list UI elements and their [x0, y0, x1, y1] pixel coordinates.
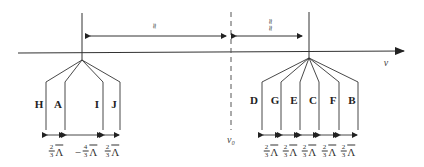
spacing-label: 23 Λ — [264, 144, 278, 159]
left-span-label: ≈ — [150, 23, 159, 30]
line-label-H: H — [35, 98, 44, 110]
spacing-label: 23 Λ — [322, 144, 336, 159]
spacing-label: 23 Λ — [302, 144, 316, 159]
nu0-label: ν₀ — [227, 134, 235, 145]
line-label-G: G — [271, 94, 280, 106]
spacing-label: 23 Λ — [341, 144, 355, 159]
spacing-label: 23 Λ — [105, 144, 119, 159]
line-label-I: I — [95, 98, 99, 110]
line-label-F: F — [330, 94, 337, 106]
line-label-A: A — [54, 98, 62, 110]
axis-label-nu: ν — [384, 57, 388, 68]
spacing-label: 23 Λ — [283, 144, 297, 159]
line-label-B: B — [348, 94, 355, 106]
frequency-axis — [18, 51, 404, 53]
line-label-J: J — [111, 98, 117, 110]
right-span-label: ≈≈ — [266, 18, 275, 31]
spectral-splitting-diagram: ν ν₀ ≈ ≈≈ H A I J D G E C F B 23 Λ − 43 … — [0, 0, 424, 167]
left-fan — [46, 60, 120, 130]
line-label-E: E — [290, 94, 297, 106]
spacing-label: 23 Λ — [49, 144, 63, 159]
line-label-D: D — [250, 94, 258, 106]
spacing-label: − 43 Λ — [75, 144, 98, 159]
diagram-lines — [0, 0, 424, 167]
line-label-C: C — [309, 94, 317, 106]
